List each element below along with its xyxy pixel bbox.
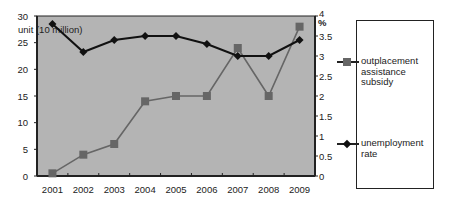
square-marker-icon [110, 140, 118, 148]
right-y-axis: 00.511.522.533.54 [315, 8, 332, 182]
svg-text:2.5: 2.5 [319, 71, 332, 82]
svg-text:2006: 2006 [196, 184, 217, 195]
svg-text:0: 0 [319, 171, 324, 182]
svg-text:3: 3 [319, 51, 324, 62]
square-marker-icon [337, 61, 359, 63]
square-marker-icon [265, 92, 273, 100]
svg-text:2001: 2001 [42, 184, 63, 195]
svg-text:15: 15 [17, 91, 28, 102]
svg-text:2008: 2008 [258, 184, 279, 195]
square-marker-icon [48, 169, 56, 177]
svg-text:20: 20 [17, 64, 28, 75]
x-axis: 200120022003200420052006200720082009 [37, 173, 315, 195]
svg-text:2005: 2005 [165, 184, 186, 195]
svg-text:2002: 2002 [73, 184, 94, 195]
square-marker-icon [79, 151, 87, 159]
svg-text:3.5: 3.5 [319, 31, 332, 42]
svg-text:1.5: 1.5 [319, 111, 332, 122]
svg-text:2003: 2003 [104, 184, 125, 195]
svg-text:5: 5 [23, 144, 28, 155]
diamond-marker-icon [337, 143, 359, 145]
svg-text:10: 10 [17, 117, 28, 128]
square-marker-icon [234, 44, 242, 52]
svg-text:30: 30 [17, 11, 28, 22]
right-axis-label: % [318, 17, 327, 28]
svg-text:2009: 2009 [289, 184, 310, 195]
legend-label: outplacement assistance subsidy [361, 56, 423, 88]
svg-text:0.5: 0.5 [319, 151, 332, 162]
square-marker-icon [296, 23, 304, 31]
left-y-axis: 051015202530 [17, 11, 37, 182]
svg-text:2007: 2007 [227, 184, 248, 195]
svg-text:2004: 2004 [135, 184, 156, 195]
square-marker-icon [203, 92, 211, 100]
legend-label: unemployment rate [361, 138, 423, 159]
svg-text:1: 1 [319, 131, 324, 142]
svg-text:25: 25 [17, 37, 28, 48]
legend: outplacement assistance subsidy unemploy… [356, 20, 434, 189]
square-marker-icon [172, 92, 180, 100]
svg-text:2: 2 [319, 91, 324, 102]
legend-item-subsidy: outplacement assistance subsidy [337, 56, 423, 88]
square-marker-icon [141, 97, 149, 105]
legend-item-unemployment: unemployment rate [337, 138, 423, 159]
svg-text:0: 0 [23, 171, 28, 182]
